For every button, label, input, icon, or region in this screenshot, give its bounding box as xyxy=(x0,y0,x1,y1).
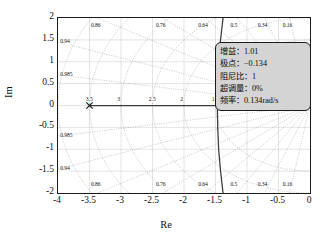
damping-label-bottom-3: 0.5 xyxy=(230,182,237,188)
y-tick-3: 0.5 xyxy=(26,78,54,88)
y-axis-title: Im xyxy=(4,86,15,98)
data-tip-row-overshoot: 超调量：0% xyxy=(220,83,310,95)
x-tick-8: 0 xyxy=(293,196,325,206)
frequency-label-1: 3.5 xyxy=(86,97,94,103)
damping-label-left-lower-0: 0.985 xyxy=(60,133,73,139)
damping-label-top-5: 0.16 xyxy=(283,23,293,29)
frequency-label-0: 4 xyxy=(57,97,58,103)
x-tick-6: -1 xyxy=(230,196,262,206)
x-tick-5: -1.5 xyxy=(199,196,231,206)
y-tick-2: 1 xyxy=(26,56,54,66)
data-tip-box[interactable]: 增益：1.01 极点：−0.134 阻尼比：1 超调量：0% 频率：0.134r… xyxy=(215,42,311,111)
damping-label-top-4: 0.34 xyxy=(257,23,267,29)
damping-label-left-upper-1: 0.985 xyxy=(60,72,73,78)
x-tick-7: -0.5 xyxy=(262,196,294,206)
damping-label-left-lower-1: 0.94 xyxy=(60,166,70,172)
damping-label-bottom-2: 0.64 xyxy=(198,182,208,188)
damping-label-bottom-0: 0.86 xyxy=(91,182,101,188)
y-tick-0: 2 xyxy=(26,12,54,22)
x-axis-title: Re xyxy=(160,220,172,231)
x-tick-1: -3.5 xyxy=(73,196,105,206)
y-tick-7: -1.5 xyxy=(26,165,54,175)
damping-label-top-3: 0.5 xyxy=(230,23,237,29)
data-tip-row-frequency: 频率：0.134rad/s xyxy=(220,95,310,107)
root-locus-figure: 21.510.50-0.5-1-1.5-2 -4-3.5-3-2.5-2-1.5… xyxy=(0,0,330,247)
damping-label-top-1: 0.76 xyxy=(156,23,166,29)
damping-label-bottom-4: 0.34 xyxy=(257,182,267,188)
x-tick-3: -2.5 xyxy=(136,196,168,206)
y-tick-4: 0 xyxy=(26,100,54,110)
frequency-label-3: 2.5 xyxy=(149,97,157,103)
x-tick-2: -3 xyxy=(104,196,136,206)
x-tick-4: -2 xyxy=(167,196,199,206)
frequency-label-4: 2 xyxy=(180,97,183,103)
frequency-label-2: 3 xyxy=(117,97,120,103)
y-tick-5: -0.5 xyxy=(26,121,54,131)
data-tip-row-pole: 极点：−0.134 xyxy=(220,58,310,70)
damping-label-bottom-5: 0.16 xyxy=(283,182,293,188)
damping-label-top-2: 0.64 xyxy=(198,23,208,29)
damping-label-top-0: 0.86 xyxy=(91,23,101,29)
damping-label-left-upper-0: 0.94 xyxy=(60,39,70,45)
y-tick-6: -1 xyxy=(26,143,54,153)
y-tick-1: 1.5 xyxy=(26,34,54,44)
data-tip-row-damping: 阻尼比：1 xyxy=(220,71,310,83)
damping-label-bottom-1: 0.76 xyxy=(156,182,166,188)
x-tick-0: -4 xyxy=(41,196,73,206)
data-tip-row-gain: 增益：1.01 xyxy=(220,46,310,58)
